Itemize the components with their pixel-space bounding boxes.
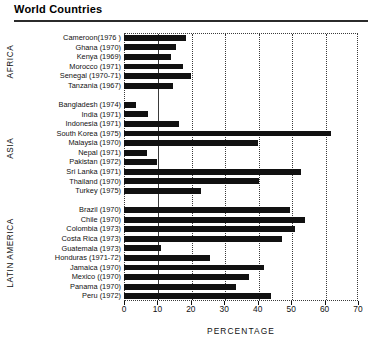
bar-row [124,121,358,127]
x-axis: 010203040506070 [124,301,358,315]
x-tick-label-40: 40 [253,305,262,314]
bar [124,245,161,251]
category-label: Chile (1970) [81,216,121,223]
bar-row [124,111,358,117]
bar [124,169,301,175]
bar-row [124,207,358,213]
category-label: Turkey (1975) [75,187,121,194]
category-label: Jamaica (1970) [70,264,121,271]
bar [124,255,210,261]
bar-row [124,169,358,175]
title-divider [14,20,368,22]
category-label: Peru (1972) [82,292,121,299]
bar [124,102,136,108]
bar-row [124,226,358,232]
category-label: Cameroon(1976 ) [63,34,121,41]
bar-row [124,274,358,280]
category-label: Morocco (1971) [69,63,121,70]
category-label: Bangladesh (1974) [59,101,121,108]
bar [124,150,147,156]
region-label-asia: ASIA [6,100,15,196]
category-labels: Cameroon(1976 )Ghana (1970)Kenya (1969)M… [28,33,121,301]
bar [124,35,186,41]
bar [124,54,171,60]
bar-row [124,64,358,70]
category-label: Honduras (1971-72) [55,254,121,261]
bar [124,83,173,89]
bar [124,178,259,184]
bar-row [124,293,358,299]
category-label: Senegal (1970-71) [60,72,121,79]
category-label: Nepal (1971) [78,149,121,156]
region-label-africa: AFRICA [6,33,15,90]
category-label: Panama (1970) [70,283,121,290]
x-tick-label-20: 20 [186,305,195,314]
bar [124,207,290,213]
x-tick-label-60: 60 [320,305,329,314]
bars-layer [124,33,358,301]
category-label: Mexico ((1970) [72,273,121,280]
x-tick-label-70: 70 [353,305,362,314]
bar-row [124,284,358,290]
category-label: Guatemala (1973) [61,245,121,252]
bar-row [124,265,358,271]
category-label: South Korea (1975) [56,130,121,137]
bar-row [124,150,358,156]
bar [124,73,191,79]
x-axis-title: PERCENTAGE [124,326,358,336]
bar [124,226,295,232]
bar [124,293,271,299]
category-label: Pakistan (1972) [69,158,121,165]
x-tick-label-0: 0 [122,305,127,314]
category-label: Colombia (1973) [66,225,121,232]
bar-row [124,245,358,251]
region-label-latin-america: LATIN AMERICA [6,205,15,301]
bar [124,274,249,280]
category-label: Brazil (1970) [79,206,121,213]
bar-row [124,188,358,194]
x-tick-label-10: 10 [153,305,162,314]
bar [124,111,148,117]
bar-row [124,73,358,79]
bar-row [124,102,358,108]
bar [124,44,176,50]
bar [124,64,183,70]
bar [124,140,258,146]
bar-row [124,54,358,60]
category-label: Thailand (1970) [69,178,121,185]
x-tick-label-50: 50 [286,305,295,314]
bar-row [124,178,358,184]
category-label: Indonesia (1971) [66,120,121,127]
category-label: India (1971) [82,111,121,118]
bar-row [124,159,358,165]
bar-row [124,140,358,146]
bar-row [124,131,358,137]
bar [124,131,331,137]
page-title: World Countries [14,3,102,15]
category-label: Costa Rica (1973) [61,235,121,242]
bar-row [124,44,358,50]
category-label: Tanzania (1967) [68,82,121,89]
chart-page: World Countries Cameroon(1976 )Ghana (19… [0,0,382,361]
category-label: Malaysia (1970) [68,139,121,146]
bar-row [124,83,358,89]
bar [124,188,201,194]
bar [124,217,305,223]
bar [124,159,157,165]
bar-row [124,255,358,261]
bar [124,265,264,271]
bar [124,236,282,242]
category-label: Sri Lanka (1971) [66,168,121,175]
bar [124,121,179,127]
category-label: Ghana (1970) [75,44,121,51]
bar [124,284,236,290]
bar-row [124,35,358,41]
bar-row [124,217,358,223]
bar-row [124,236,358,242]
x-tick-label-30: 30 [220,305,229,314]
category-label: Kenya (1969) [77,53,121,60]
